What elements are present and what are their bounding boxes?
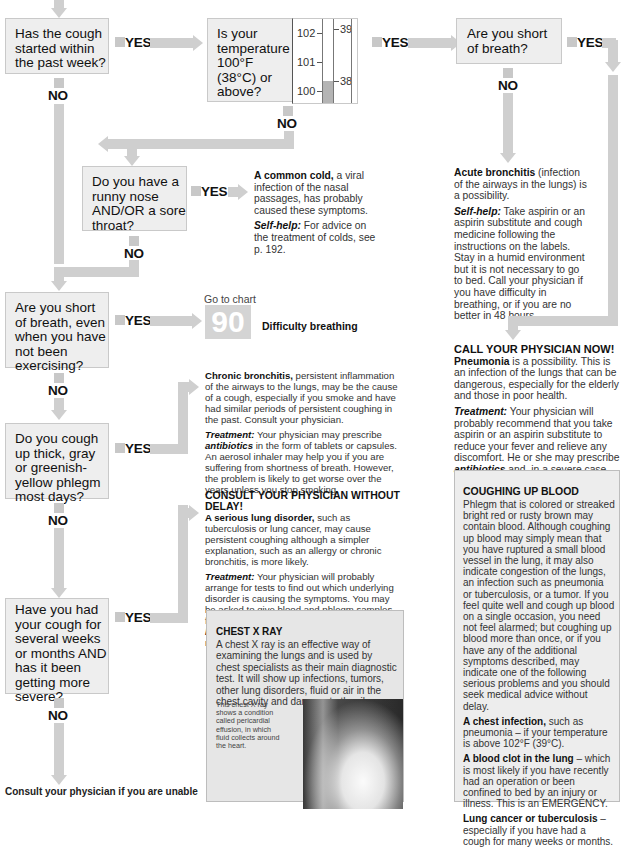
yes-marker xyxy=(372,37,382,47)
flow-arrow-head xyxy=(98,136,108,152)
chest-xray-panel: CHEST X RAY A chest X ray is an effectiv… xyxy=(206,610,404,802)
flow-arrow xyxy=(54,528,64,588)
coughing-blood-panel: COUGHING UP BLOOD Phlegm that is colored… xyxy=(454,470,620,802)
yes-label: YES xyxy=(382,35,408,50)
flow-arrow xyxy=(608,75,618,325)
yes-label: YES xyxy=(201,184,227,199)
question-breath-no-exercise: Are you short of breath, even when you h… xyxy=(5,292,109,368)
yes-label: YES xyxy=(125,610,151,625)
flow-arrow xyxy=(503,93,513,153)
no-marker xyxy=(129,236,139,246)
goto-chart-prefix: Go to chart xyxy=(204,293,256,305)
flow-arrow-head xyxy=(189,379,199,395)
yes-marker xyxy=(567,37,577,47)
no-label: NO xyxy=(277,116,297,131)
flow-arrow-head xyxy=(192,313,202,329)
yes-label: YES xyxy=(125,313,151,328)
question-text: Are you short of breath? xyxy=(467,26,547,56)
flow-arrow xyxy=(515,316,618,326)
common-cold-info: A common cold, a viral infection of the … xyxy=(254,170,378,259)
flow-arrow xyxy=(54,723,64,775)
yes-label: YES xyxy=(125,441,151,456)
flow-arrow xyxy=(60,267,139,277)
yes-marker xyxy=(115,37,125,47)
flow-arrow xyxy=(178,505,188,623)
flow-arrow-head xyxy=(605,62,621,72)
yes-label: YES xyxy=(577,35,603,50)
flow-arrow xyxy=(54,0,64,8)
no-label: NO xyxy=(48,513,68,528)
no-marker xyxy=(54,698,64,708)
flow-arrow xyxy=(228,187,238,197)
flow-arrow xyxy=(608,40,618,64)
chart-90-link[interactable]: 90 xyxy=(205,305,251,339)
no-marker xyxy=(54,78,64,88)
flow-arrow xyxy=(54,398,64,410)
tick-102: 102 xyxy=(297,27,315,39)
thermometer-scale: 102 101 100 39 38 xyxy=(292,18,358,104)
flow-arrow-head xyxy=(51,588,67,598)
flow-arrow-head xyxy=(500,153,516,163)
flow-arrow xyxy=(150,38,193,48)
question-runny-nose: Do you have a runny nose AND/OR a sore t… xyxy=(82,166,187,231)
acute-bronchitis-info: Acute bronchitis (infection of the airwa… xyxy=(454,167,590,326)
question-text: Are you short of breath, even when you h… xyxy=(15,300,106,373)
chest-xray-image xyxy=(303,699,403,809)
question-short-of-breath: Are you short of breath? xyxy=(456,18,562,64)
no-marker xyxy=(54,503,64,513)
flow-arrow-head xyxy=(51,281,67,291)
flow-arrow-head xyxy=(51,410,67,420)
question-text: Do you have a runny nose AND/OR a sore t… xyxy=(92,174,186,233)
no-label: NO xyxy=(48,88,68,103)
tick-101: 101 xyxy=(297,56,315,68)
yes-marker xyxy=(115,443,125,453)
chronic-bronchitis-info: Chronic bronchitis, persistent inflammat… xyxy=(205,370,400,499)
no-marker xyxy=(503,68,513,78)
flow-arrow xyxy=(178,388,188,454)
no-marker xyxy=(283,106,293,116)
flow-arrow xyxy=(150,316,192,326)
question-cough-weeks: Have you had your cough for several week… xyxy=(5,598,109,694)
flow-arrow-head xyxy=(505,330,521,340)
footer-fragment: Consult your physician if you are unable xyxy=(5,786,198,797)
no-label: NO xyxy=(498,78,518,93)
question-cough-past-week: Has the cough started within the past we… xyxy=(5,18,109,74)
flow-arrow-head xyxy=(124,156,140,166)
flow-arrow xyxy=(54,104,64,264)
question-text: Is your temperature 100°F (38°C) or abov… xyxy=(217,26,290,99)
yes-marker xyxy=(191,186,201,196)
question-text: Do you cough up thick, gray or greenish-… xyxy=(15,431,101,504)
flow-arrow xyxy=(408,38,451,48)
no-label: NO xyxy=(48,383,68,398)
flow-arrow xyxy=(508,316,518,330)
yes-label: YES xyxy=(125,35,151,50)
tick-100: 100 xyxy=(297,85,315,97)
yes-marker xyxy=(115,612,125,622)
flow-arrow-head xyxy=(189,505,199,521)
question-temperature: Is your temperature 100°F (38°C) or abov… xyxy=(207,18,293,102)
flow-arrow-head xyxy=(193,35,203,51)
mercury-level xyxy=(323,81,333,103)
question-text: Has the cough started within the past we… xyxy=(15,26,106,70)
no-marker xyxy=(54,373,64,383)
question-text: Have you had your cough for several week… xyxy=(15,602,107,704)
flow-arrow-head xyxy=(51,775,67,785)
no-label: NO xyxy=(124,246,144,261)
question-phlegm: Do you cough up thick, gray or greenish-… xyxy=(5,423,109,499)
goto-chart-title[interactable]: Difficulty breathing xyxy=(262,320,358,332)
flow-arrow-head xyxy=(238,184,248,200)
flow-arrow-head xyxy=(51,8,67,18)
yes-marker xyxy=(115,315,125,325)
flow-arrow xyxy=(54,267,64,281)
no-label: NO xyxy=(48,708,68,723)
